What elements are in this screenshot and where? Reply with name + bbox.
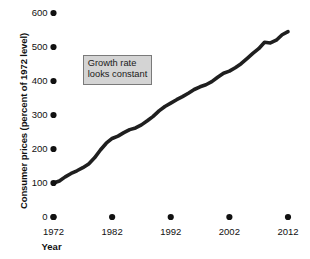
y-tick-dot (50, 180, 56, 186)
x-tick-dot (50, 214, 56, 220)
growth-rate-annotation: Growth rate looks constant (83, 55, 152, 85)
x-tick-label: 1972 (34, 226, 74, 237)
y-axis-tick-markers (50, 10, 56, 220)
y-tick-label: 400 (18, 75, 48, 86)
x-axis-title: Year (42, 241, 62, 252)
annotation-line-1: Growth rate (88, 58, 147, 70)
y-tick-label: 600 (18, 7, 48, 18)
y-tick-dot (50, 112, 56, 118)
annotation-line-2: looks constant (88, 69, 147, 81)
x-tick-label: 1992 (151, 226, 191, 237)
x-axis-tick-markers (50, 214, 291, 220)
y-tick-dot (50, 78, 56, 84)
x-tick-dot (285, 214, 291, 220)
x-tick-dot (109, 214, 115, 220)
y-tick-label: 200 (18, 143, 48, 154)
y-tick-label: 300 (18, 109, 48, 120)
y-tick-label: 100 (18, 177, 48, 188)
consumer-prices-chart: Consumer prices (percent of 1972 level) … (0, 0, 310, 259)
x-tick-dot (168, 214, 174, 220)
x-tick-label: 2012 (268, 226, 308, 237)
x-tick-label: 2002 (209, 226, 249, 237)
y-tick-label: 500 (18, 41, 48, 52)
x-tick-dot (226, 214, 232, 220)
y-tick-label: 0 (18, 211, 48, 222)
y-tick-dot (50, 146, 56, 152)
x-tick-label: 1982 (92, 226, 132, 237)
y-tick-dot (50, 44, 56, 50)
y-tick-dot (50, 10, 56, 16)
